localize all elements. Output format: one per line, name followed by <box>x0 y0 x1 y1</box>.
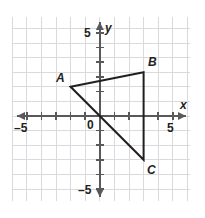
coordinate-plane-figure: –5 5 5 –5 0 x y A B C <box>0 0 205 218</box>
plot-background <box>13 17 190 201</box>
y-axis-tick-label-pos5: 5 <box>84 27 91 39</box>
vertex-label-b: B <box>148 56 157 68</box>
vertex-label-a: A <box>56 72 65 84</box>
x-axis-tick-label-pos5: 5 <box>167 122 174 134</box>
y-axis-label: y <box>105 22 112 34</box>
coordinate-plane-graph <box>0 0 205 218</box>
vertex-label-c: C <box>147 164 156 176</box>
x-axis-tick-label-neg5: –5 <box>14 122 27 134</box>
origin-label: 0 <box>87 119 94 131</box>
x-axis-label: x <box>180 99 187 111</box>
y-axis-tick-label-neg5: –5 <box>78 184 91 196</box>
